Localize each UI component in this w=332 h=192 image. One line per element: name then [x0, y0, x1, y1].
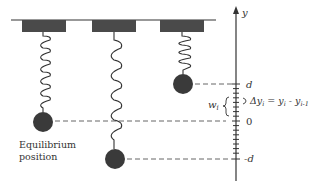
- mass-right: [173, 74, 193, 94]
- equilibrium-label-line1: Equilibrium: [19, 139, 76, 150]
- tick-label-zero: 0: [246, 116, 252, 127]
- y-axis-label: y: [241, 7, 248, 18]
- spring-middle: [111, 32, 121, 149]
- tick-label-neg-d: -d: [244, 153, 254, 164]
- delta-y-equation: Δyi = yi - yi-1: [249, 95, 309, 108]
- width-brace-icon: [223, 97, 229, 116]
- mass-middle: [105, 149, 125, 169]
- support-block-left: [22, 20, 66, 32]
- support-block-middle: [92, 20, 136, 32]
- support-block-right: [160, 20, 204, 32]
- spring-right: [179, 32, 191, 74]
- width-label: wi: [208, 99, 219, 112]
- tick-label-d: d: [246, 79, 252, 90]
- y-axis-arrow-icon: [233, 6, 239, 14]
- spring-mass-diagram: y d 0 -d wi Δyi = yi - yi-1 Equilibrium …: [0, 0, 332, 192]
- equilibrium-label-line2: position: [19, 151, 57, 162]
- spring-left: [41, 32, 51, 112]
- mass-left: [33, 112, 53, 132]
- delta-brace-icon: [243, 98, 246, 104]
